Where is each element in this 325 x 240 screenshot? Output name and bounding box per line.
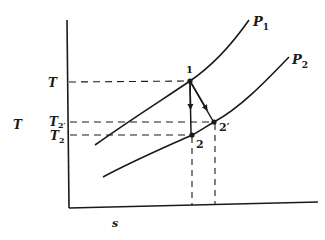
temperature-guides: [69, 81, 214, 135]
x-axis-label: s: [112, 217, 118, 230]
point-1-label: 1: [186, 64, 193, 75]
t2p-subscript: 2′: [58, 120, 66, 130]
x-axis: [69, 202, 318, 208]
axes: [67, 20, 318, 208]
t-guide-line: [69, 81, 190, 82]
isobar-p1-label: P1: [252, 14, 269, 32]
entropy-guides: [192, 124, 215, 205]
t-s-diagram: 1 2 2′ P1 P2 T T2′ T2 T s: [0, 0, 325, 240]
t-level-label: T: [48, 76, 58, 90]
isobar-p2-subscript: 2: [302, 60, 308, 70]
point-2-label: 2: [196, 138, 204, 151]
actual-arrow-head: [190, 81, 207, 110]
point-2p-label: 2′: [219, 121, 230, 134]
point-2-marker: [189, 132, 194, 137]
t2-level-label: T2: [50, 129, 65, 145]
point-2p-marker: [211, 119, 216, 124]
y-axis: [67, 20, 69, 208]
isentropic-arrow-head: [190, 81, 191, 109]
isobar-p1-subscript: 1: [263, 22, 269, 32]
t2-subscript: 2: [59, 135, 65, 145]
isobar-p2-curve: [103, 57, 289, 177]
isobar-p2-label: P2: [291, 52, 308, 70]
y-axis-label: T: [13, 118, 23, 132]
t2p-level-label: T2′: [49, 115, 66, 130]
point-1-marker: [187, 78, 192, 83]
